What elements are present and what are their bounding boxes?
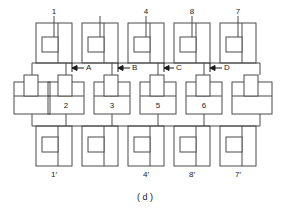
top-cell [128,23,164,63]
middle-cell: 3 [94,75,130,114]
top-cell-label: 1 [52,7,57,16]
top-row-group [36,23,256,63]
middle-cell: 6 [186,75,222,114]
bottom-cell [82,126,118,166]
top-label-stems [54,16,238,23]
dimension-label: B [132,63,137,72]
dimension-arrow: D [210,63,230,72]
bottom-cell-label: 4′ [143,170,149,179]
figure-container: 1 4 8 7 A [0,0,291,213]
top-cell-label: 8 [190,7,195,16]
top-cell [36,23,72,63]
bottom-cell-label: 8′ [189,170,195,179]
bottom-cell-label: 1′ [51,170,57,179]
dimension-label: A [86,63,92,72]
middle-cell [232,75,272,114]
middle-cell-label: 2 [64,101,69,110]
bottom-cell [36,126,72,166]
top-cell [220,23,256,63]
bottom-cell [220,126,256,166]
bottom-row-group [36,126,256,166]
top-cell [82,23,118,63]
bottom-cell [174,126,210,166]
middle-cell-label: 3 [110,101,115,110]
top-cell-label: 7 [236,7,241,16]
lattice-diagram: 1 4 8 7 A [0,0,291,213]
middle-cell: 5 [140,75,176,114]
dimension-label: C [176,63,182,72]
figure-caption: ( d ) [137,192,153,202]
dimension-arrow: C [164,63,182,72]
lower-rail [32,114,260,126]
middle-cell-label: 5 [156,101,161,110]
middle-row-group: 2 3 5 6 [14,75,272,114]
dimension-arrow: A [72,63,92,72]
bottom-cell [128,126,164,166]
dimension-arrows: A B C D [72,63,230,72]
dimension-label: D [224,63,230,72]
dimension-arrow: B [118,63,137,72]
bottom-cell-label: 7′ [235,170,241,179]
middle-cell: 2 [48,75,84,114]
middle-cell [14,75,50,114]
top-cell [174,23,210,63]
top-cell-label: 4 [144,7,149,16]
middle-cell-label: 6 [202,101,207,110]
